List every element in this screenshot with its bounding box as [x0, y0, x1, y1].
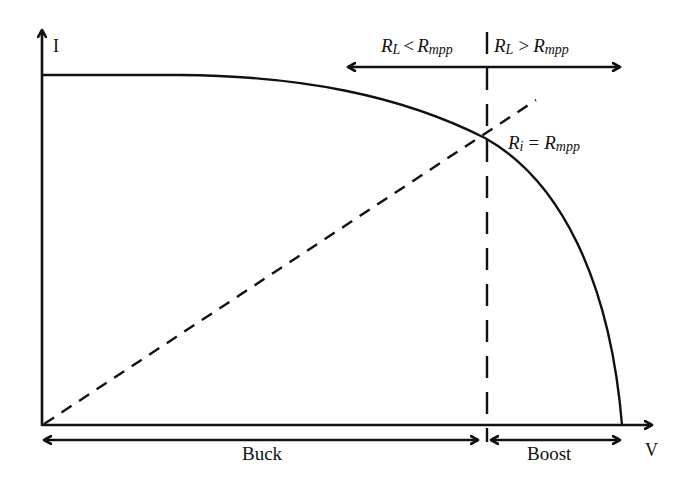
x-axis-label: V	[645, 440, 658, 460]
boost-label: Boost	[527, 443, 572, 464]
iv-curve-diagram: I V RL<Rmpp RL>Rmpp Ri=Rmpp Buck Boost	[0, 0, 691, 489]
label-rl-greater-rmpp: RL>Rmpp	[493, 35, 569, 57]
label-ri-equals-rmpp: Ri=Rmpp	[507, 132, 580, 154]
label-rl-less-rmpp: RL<Rmpp	[380, 35, 453, 57]
iv-curve	[42, 75, 622, 425]
buck-label: Buck	[242, 443, 283, 464]
load-line-dashed	[44, 100, 536, 424]
y-axis-label: I	[53, 36, 59, 56]
